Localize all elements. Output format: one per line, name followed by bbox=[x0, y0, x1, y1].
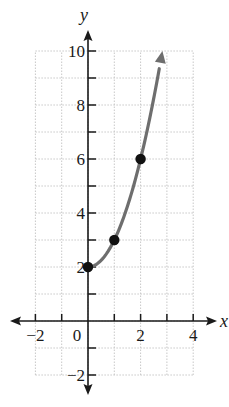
y-tick-label: 10 bbox=[68, 42, 85, 61]
y-tick-label: −2 bbox=[67, 366, 85, 385]
data-point bbox=[109, 235, 119, 245]
y-tick-label: 8 bbox=[77, 96, 86, 115]
graph: −2024−2246810 x y bbox=[0, 0, 229, 407]
y-tick-label: 6 bbox=[77, 150, 86, 169]
data-point bbox=[135, 154, 145, 164]
grid bbox=[35, 51, 193, 375]
x-tick-label: 4 bbox=[189, 326, 198, 345]
curve-arrow-icon bbox=[155, 51, 166, 64]
tick-labels: −2024−2246810 bbox=[26, 42, 198, 385]
x-tick-label: 2 bbox=[136, 326, 145, 345]
y-tick-label: 4 bbox=[77, 204, 86, 223]
x-axis-label: x bbox=[219, 311, 228, 331]
y-axis-label: y bbox=[78, 5, 88, 25]
x-tick-label: 0 bbox=[73, 326, 82, 345]
function-curve bbox=[88, 69, 159, 267]
data-point bbox=[83, 262, 93, 272]
x-tick-label: −2 bbox=[26, 326, 44, 345]
